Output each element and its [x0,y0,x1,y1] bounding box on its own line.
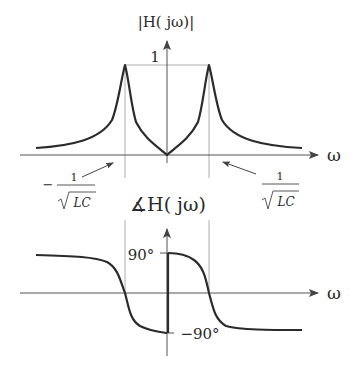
phase-curve-right [168,253,302,330]
phase-title: ∡H( jω) [130,193,206,215]
right-marker-arrow [223,162,256,174]
right-marker-numerator: 1 [277,170,284,183]
magnitude-omega-label: ω [327,145,341,165]
unity-tick-label: 1 [150,48,160,66]
phase-plot: ∡H( jω) 90° −90° ω [20,193,341,356]
right-marker-denominator: LC [276,195,294,209]
pos-90-label: 90° [128,246,155,264]
left-marker-denominator: LC [72,196,90,210]
phase-curve-left [36,255,167,333]
magnitude-title: |H( jω)| [138,13,195,31]
left-marker-numerator: 1 [71,171,78,184]
left-marker-arrow [82,163,113,177]
left-marker-sign: − [43,177,54,192]
phase-omega-label: ω [327,283,341,303]
magnitude-plot: |H( jω)| 1 ω − 1 LC 1 LC [20,13,341,210]
frequency-response-diagram: |H( jω)| 1 ω − 1 LC 1 LC ∡H( jω) 90° −9 [0,0,357,366]
neg-90-label: −90° [180,325,219,343]
magnitude-curve [36,65,302,155]
